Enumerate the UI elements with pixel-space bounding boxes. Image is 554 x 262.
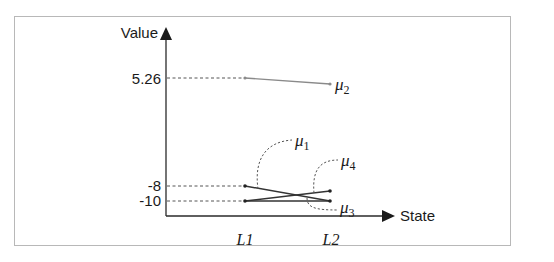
series-mu2-start-point	[243, 76, 246, 79]
point-l2-minus-9	[328, 189, 332, 193]
callout-mu4	[314, 160, 338, 193]
series-mu2-line	[245, 78, 330, 84]
y-axis-arrow-icon	[160, 27, 172, 40]
y-tick-minus-10: -10	[139, 192, 161, 209]
label-mu1: μ1	[294, 131, 310, 153]
point-l1-minus-8	[243, 184, 247, 188]
x-tick-l2: L2	[322, 231, 340, 248]
x-axis-arrow-icon	[382, 210, 395, 222]
y-axis-label: Value	[121, 24, 158, 41]
x-tick-l1: L1	[236, 231, 254, 248]
value-state-diagram: Value State 5.26 -8 -10 L1 L2 μ2 μ1 μ4 μ…	[0, 0, 554, 262]
point-l2-minus-10	[328, 199, 332, 203]
label-mu3: μ3	[339, 198, 355, 220]
point-l1-minus-10	[243, 199, 247, 203]
label-mu4: μ4	[340, 151, 356, 173]
series-mu2-end-point	[328, 82, 331, 85]
x-axis-label: State	[400, 207, 435, 224]
callout-mu1	[257, 140, 292, 189]
label-mu2: μ2	[334, 75, 350, 97]
y-tick-5-26: 5.26	[132, 70, 161, 87]
